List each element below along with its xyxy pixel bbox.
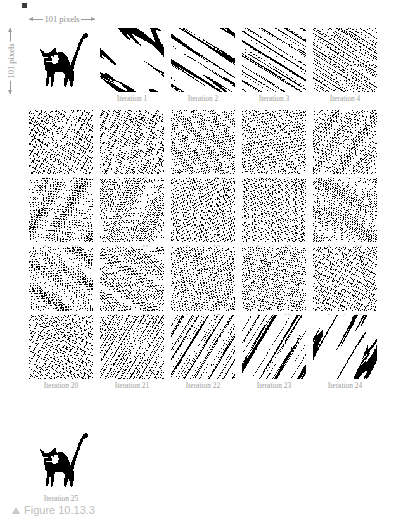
cell-iteration-19 <box>313 247 377 311</box>
cell-iteration-21 <box>100 315 164 379</box>
label-iteration-2: Iteration 2 <box>171 93 235 104</box>
cell-iteration-24 <box>313 315 377 379</box>
label-iteration-23: Iteration 23 <box>242 380 306 391</box>
label-iteration-4: Iteration 4 <box>313 93 377 104</box>
cell-iteration-25 <box>29 428 93 492</box>
cell-iteration-4 <box>313 28 377 92</box>
cell-iteration-15 <box>29 247 93 311</box>
cell-iteration-10 <box>29 178 93 242</box>
cell-original <box>29 28 93 92</box>
cell-iteration-13 <box>242 178 306 242</box>
cell-iteration-9 <box>313 110 377 174</box>
cell-iteration-18 <box>242 247 306 311</box>
width-annotation-label: 101 pixels <box>43 14 80 24</box>
label-iteration-22: Iteration 22 <box>171 380 235 391</box>
cell-iteration-2 <box>171 28 235 92</box>
corner-mark <box>22 3 27 8</box>
cell-iteration-11 <box>100 178 164 242</box>
label-iteration-1: Iteration 1 <box>100 93 164 104</box>
figure-caption-text: Figure 10.13.3 <box>24 504 95 516</box>
cell-iteration-16 <box>100 247 164 311</box>
label-iteration-21: Iteration 21 <box>100 380 164 391</box>
cell-iteration-17 <box>171 247 235 311</box>
height-annotation: 101 pixels <box>4 28 17 94</box>
cell-iteration-14 <box>313 178 377 242</box>
label-iteration-20: Iteration 20 <box>29 380 93 391</box>
triangle-icon <box>12 507 20 514</box>
cell-iteration-12 <box>171 178 235 242</box>
cell-iteration-5 <box>29 110 93 174</box>
cell-iteration-3 <box>242 28 306 92</box>
label-iteration-24: Iteration 24 <box>313 380 377 391</box>
arrow-right-icon <box>91 17 95 21</box>
arrow-left-icon <box>29 17 33 21</box>
cell-iteration-23 <box>242 315 306 379</box>
cell-iteration-1 <box>100 28 164 92</box>
cell-iteration-6 <box>100 110 164 174</box>
arrow-down-icon <box>8 90 12 94</box>
cell-iteration-22 <box>171 315 235 379</box>
width-annotation: 101 pixels <box>29 13 95 26</box>
cell-iteration-8 <box>242 110 306 174</box>
cell-iteration-20 <box>29 315 93 379</box>
figure-caption: Figure 10.13.3 <box>12 503 95 517</box>
arrow-up-icon <box>8 28 12 32</box>
label-iteration-3: Iteration 3 <box>242 93 306 104</box>
cell-iteration-7 <box>171 110 235 174</box>
height-annotation-label: 101 pixels <box>6 41 16 80</box>
